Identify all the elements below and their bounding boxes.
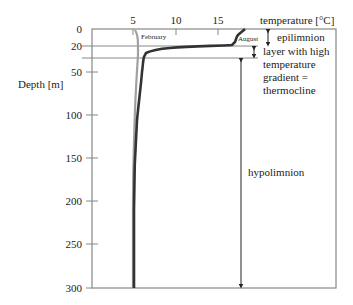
y-tick-label: 150 <box>66 152 83 164</box>
y-tick-label: 50 <box>71 66 83 78</box>
y-axis-title: Depth [m] <box>18 78 64 90</box>
y-tick-label: 20 <box>71 40 83 52</box>
february-label: February <box>141 33 167 41</box>
thermocline-label-line4: thermocline <box>263 84 316 96</box>
y-tick-label: 300 <box>66 282 83 294</box>
y-tick-label: 100 <box>66 109 83 121</box>
y-axis-tick-labels: 0 20 50 100 150 200 250 300 <box>66 23 83 294</box>
x-axis-title: temperature [°C] <box>260 14 334 26</box>
thermocline-label-line3: gradient = <box>263 71 308 83</box>
y-tick-label: 200 <box>66 195 83 207</box>
x-axis-tick-labels: 5 10 15 <box>130 14 224 26</box>
august-label: August <box>238 35 258 43</box>
y-tick-label: 0 <box>77 23 83 35</box>
thermocline-label-line1: layer with high <box>263 45 330 57</box>
thermocline-label-line2: temperature <box>263 58 316 70</box>
epilimnion-label: epilimnion <box>277 31 325 43</box>
x-tick-label: 10 <box>171 14 183 26</box>
y-tick-label: 250 <box>66 238 83 250</box>
hypolimnion-label: hypolimnion <box>248 166 305 178</box>
x-tick-label: 5 <box>130 14 136 26</box>
x-tick-label: 15 <box>213 14 225 26</box>
lake-temperature-chart: 5 10 15 temperature [°C] 0 20 50 100 150… <box>0 0 353 305</box>
august-curve <box>134 29 245 288</box>
